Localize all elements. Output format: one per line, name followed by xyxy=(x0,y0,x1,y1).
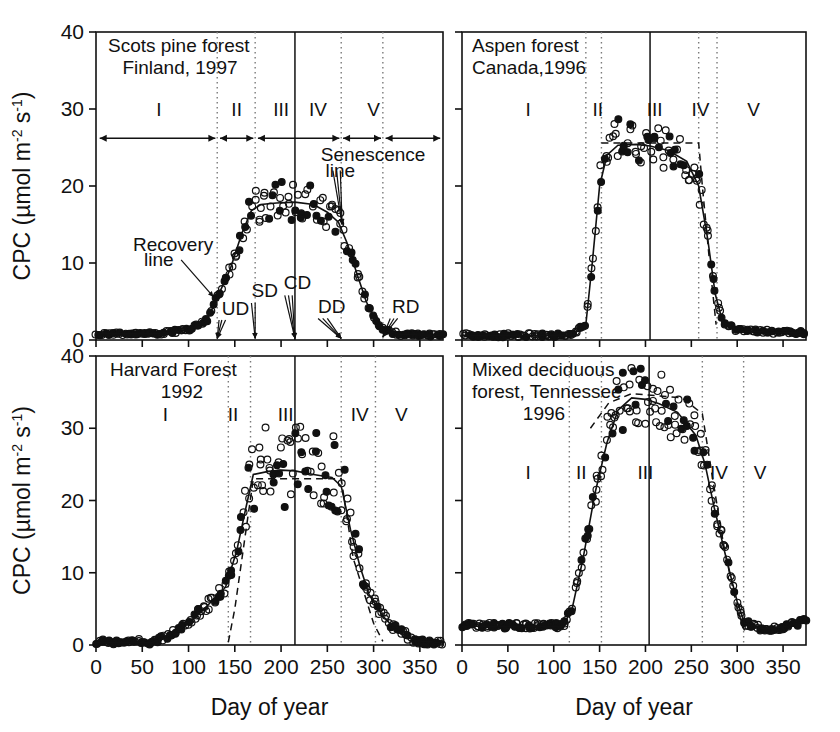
xtick-label-harvard-forest-5: 250 xyxy=(310,655,345,678)
panel-scots-pine: 010203040Scots pine forestFinland, 1997I… xyxy=(61,20,447,351)
data-point xyxy=(251,505,258,512)
phase-label-aspen-V: V xyxy=(747,99,760,120)
rd-label: RD xyxy=(392,296,419,317)
xtick-label-mixed-deciduous-0: 0 xyxy=(456,655,468,678)
phase-label-scots-pine-IV: IV xyxy=(309,99,327,120)
panel-title-mixed-deciduous-line1: forest, Tennessee xyxy=(472,381,622,402)
panel-aspen: Aspen forestCanada,1996IIIIIIIVV xyxy=(455,32,807,347)
panel-mixed-deciduous: 050100150200250300350Mixed deciduousfore… xyxy=(455,356,810,678)
xtick-label-mixed-deciduous-6: 300 xyxy=(720,655,755,678)
phase-label-harvard-forest-II: II xyxy=(228,404,239,425)
panel-title-aspen-line1: Canada,1996 xyxy=(472,57,586,78)
phase-label-harvard-forest-III: III xyxy=(278,404,294,425)
phase-label-aspen-I: I xyxy=(525,99,530,120)
data-point xyxy=(440,331,447,338)
figure-svg: 010203040Scots pine forestFinland, 1997I… xyxy=(0,0,840,732)
ytick-label-scots-pine-3: 30 xyxy=(61,97,84,120)
xtick-label-mixed-deciduous-5: 250 xyxy=(674,655,709,678)
data-point xyxy=(624,149,631,156)
data-point xyxy=(280,461,287,468)
data-point xyxy=(619,427,626,434)
xtick-label-mixed-deciduous-1: 50 xyxy=(496,655,519,678)
phase-label-mixed-deciduous-II: II xyxy=(576,462,587,483)
data-point xyxy=(266,215,273,222)
data-point xyxy=(270,479,277,486)
ytick-label-scots-pine-1: 10 xyxy=(61,251,84,274)
data-point xyxy=(800,331,807,338)
data-point xyxy=(288,217,295,224)
phase-label-scots-pine-II: II xyxy=(231,99,242,120)
ytick-label-harvard-forest-2: 20 xyxy=(61,489,84,512)
panel-harvard-forest: 010203040050100150200250300350Harvard Fo… xyxy=(61,344,446,678)
xtick-label-harvard-forest-2: 100 xyxy=(171,655,206,678)
phase-label-harvard-forest-I: I xyxy=(163,404,168,425)
xtick-label-harvard-forest-1: 50 xyxy=(131,655,154,678)
data-point xyxy=(305,486,312,493)
x-axis-title-right: Day of year xyxy=(575,694,693,720)
data-point xyxy=(323,488,330,495)
data-point xyxy=(352,530,359,537)
data-point xyxy=(313,430,320,437)
phase-label-mixed-deciduous-I: I xyxy=(525,462,530,483)
panel-title-harvard-forest-line1: 1992 xyxy=(161,381,203,402)
data-point xyxy=(619,369,626,376)
panel-frame-harvard-forest xyxy=(96,356,443,645)
xtick-label-mixed-deciduous-7: 350 xyxy=(766,655,801,678)
data-point xyxy=(666,133,673,140)
xtick-label-mixed-deciduous-2: 100 xyxy=(536,655,571,678)
data-point xyxy=(684,396,691,403)
xtick-label-harvard-forest-6: 300 xyxy=(356,655,391,678)
ud-label: UD xyxy=(222,298,249,319)
data-point xyxy=(665,418,672,425)
phase-label-mixed-deciduous-V: V xyxy=(754,462,767,483)
data-point xyxy=(637,365,644,372)
phase-label-aspen-II: II xyxy=(592,99,603,120)
ytick-label-harvard-forest-3: 30 xyxy=(61,416,84,439)
y-axis-title-top-text: CPC (µmol m-2 s-1) xyxy=(9,92,35,281)
data-point xyxy=(278,179,285,186)
figure-panel-grid: 010203040Scots pine forestFinland, 1997I… xyxy=(0,0,840,732)
data-point xyxy=(696,171,703,178)
phase-label-aspen-III: III xyxy=(647,99,663,120)
x-axis-title-left: Day of year xyxy=(211,694,329,720)
ytick-label-harvard-forest-0: 0 xyxy=(72,633,84,656)
panel-title-mixed-deciduous-line0: Mixed deciduous xyxy=(472,359,615,380)
xtick-label-mixed-deciduous-4: 200 xyxy=(628,655,663,678)
y-axis-title-top: CPC (µmol m-2 s-1) xyxy=(9,92,35,281)
dd-label: DD xyxy=(318,296,345,317)
data-point xyxy=(307,182,314,189)
phase-label-scots-pine-I: I xyxy=(156,99,161,120)
phase-label-scots-pine-V: V xyxy=(367,99,380,120)
data-point xyxy=(304,212,311,219)
panel-title-scots-pine-line1: Finland, 1997 xyxy=(122,57,237,78)
phase-label-harvard-forest-V: V xyxy=(395,404,408,425)
y-axis-title-bottom: CPC (µmol m-2 s-1) xyxy=(9,406,35,595)
xtick-label-harvard-forest-3: 150 xyxy=(217,655,252,678)
sd-label: SD xyxy=(251,280,277,301)
data-point xyxy=(281,504,288,511)
data-point xyxy=(630,368,637,375)
data-point xyxy=(670,163,677,170)
data-point xyxy=(332,228,339,235)
xtick-label-mixed-deciduous-3: 150 xyxy=(582,655,617,678)
senescence-line-label2: line xyxy=(325,160,355,181)
panel-frame-aspen xyxy=(462,32,806,340)
cd-label: CD xyxy=(284,272,311,293)
data-point xyxy=(615,116,622,123)
data-point xyxy=(294,481,301,488)
ytick-label-scots-pine-2: 20 xyxy=(61,174,84,197)
data-point xyxy=(636,157,643,164)
recovery-line-label2: line xyxy=(144,249,174,270)
xtick-label-harvard-forest-7: 350 xyxy=(402,655,437,678)
panel-title-mixed-deciduous-line2: 1996 xyxy=(523,403,565,424)
phase-label-harvard-forest-IV: IV xyxy=(351,404,369,425)
phase-label-aspen-IV: IV xyxy=(692,99,710,120)
y-axis-title-bottom-text: CPC (µmol m-2 s-1) xyxy=(9,406,35,595)
ytick-label-harvard-forest-1: 10 xyxy=(61,561,84,584)
xtick-label-harvard-forest-0: 0 xyxy=(90,655,102,678)
panel-title-harvard-forest-line0: Harvard Forest xyxy=(110,359,237,380)
phase-label-scots-pine-III: III xyxy=(273,99,289,120)
panel-title-scots-pine-line0: Scots pine forest xyxy=(108,35,250,56)
data-point xyxy=(341,466,348,473)
ytick-label-scots-pine-4: 40 xyxy=(61,20,84,43)
